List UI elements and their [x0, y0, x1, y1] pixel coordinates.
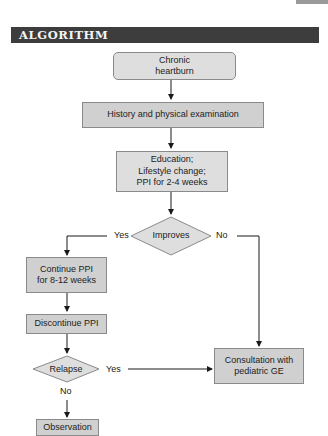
node-text: Chronic: [155, 55, 194, 67]
node-history-exam: History and physical examination: [82, 102, 264, 128]
edge-label-improves-yes: Yes: [114, 230, 129, 240]
node-text: Education;: [136, 154, 207, 166]
node-chronic-heartburn: Chronic heartburn: [113, 52, 236, 80]
node-text: for 8-12 weeks: [37, 275, 96, 287]
node-text: Observation: [43, 422, 92, 434]
node-observation: Observation: [36, 419, 99, 436]
node-text: Discontinue PPI: [34, 318, 98, 330]
node-consultation-pediatric-ge: Consultation with pediatric GE: [214, 348, 304, 384]
node-text: pediatric GE: [225, 366, 294, 378]
edge-label-relapse-yes: Yes: [106, 364, 121, 374]
node-continue-ppi: Continue PPI for 8-12 weeks: [26, 257, 107, 293]
node-text: PPI for 2-4 weeks: [136, 177, 207, 189]
decision-improves-label: Improves: [131, 230, 211, 240]
node-text: Lifestyle change;: [136, 166, 207, 178]
edge-label-improves-no: No: [216, 230, 228, 240]
node-education: Education; Lifestyle change; PPI for 2-4…: [116, 151, 228, 192]
node-text: Consultation with: [225, 355, 294, 367]
node-discontinue-ppi: Discontinue PPI: [26, 314, 107, 334]
decision-relapse-label: Relapse: [33, 364, 99, 374]
node-text: Continue PPI: [37, 264, 96, 276]
edge-label-relapse-no: No: [60, 386, 72, 396]
node-text: History and physical examination: [107, 109, 239, 121]
node-text: heartburn: [155, 66, 194, 78]
